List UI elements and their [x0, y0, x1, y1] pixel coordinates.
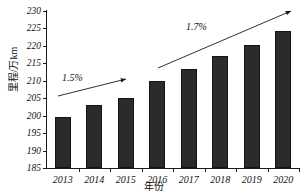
x-tick-mark	[173, 168, 174, 172]
y-tick-label: 195	[27, 128, 41, 138]
y-tick-label: 200	[27, 111, 41, 121]
x-tick-label: 2019	[242, 174, 262, 185]
y-tick-label: 225	[27, 23, 41, 33]
x-tick-mark	[79, 168, 80, 172]
x-tick-label: 2017	[179, 174, 199, 185]
x-tick-mark	[236, 168, 237, 172]
bar	[149, 81, 165, 168]
y-tick-label: 185	[27, 163, 41, 173]
plot-area: 185190195200205210215220225230 201320142…	[47, 11, 299, 168]
y-tick-mark	[43, 63, 47, 64]
y-tick-mark	[43, 98, 47, 99]
y-tick-label: 205	[27, 93, 41, 103]
growth-rate-label: 1.7%	[186, 21, 207, 32]
x-tick-label: 2014	[84, 174, 104, 185]
bar-chart: 里程/万km 年份 185190195200205210215220225230…	[0, 0, 308, 194]
y-tick-label: 220	[27, 41, 41, 51]
x-tick-mark	[142, 168, 143, 172]
y-axis-title: 里程/万km	[5, 20, 20, 120]
y-tick-mark	[43, 11, 47, 12]
y-tick-mark	[43, 168, 47, 169]
bar	[244, 45, 260, 168]
y-tick-mark	[43, 28, 47, 29]
x-tick-label: 2016	[147, 174, 167, 185]
x-tick-mark	[268, 168, 269, 172]
bar	[181, 69, 197, 168]
bar	[275, 31, 291, 168]
y-tick-mark	[43, 133, 47, 134]
y-tick-label: 215	[27, 58, 41, 68]
bar	[212, 56, 228, 168]
y-tick-mark	[43, 81, 47, 82]
x-tick-label: 2013	[53, 174, 73, 185]
bar	[55, 117, 71, 168]
growth-rate-label: 1.5%	[62, 72, 83, 83]
x-tick-label: 2020	[273, 174, 293, 185]
x-tick-mark	[205, 168, 206, 172]
bar	[86, 105, 102, 168]
x-tick-mark	[110, 168, 111, 172]
x-tick-label: 2018	[210, 174, 230, 185]
y-tick-mark	[43, 151, 47, 152]
x-tick-mark	[299, 168, 300, 172]
x-tick-label: 2015	[116, 174, 136, 185]
y-tick-mark	[43, 46, 47, 47]
y-tick-label: 230	[27, 6, 41, 16]
y-tick-mark	[43, 116, 47, 117]
y-tick-label: 210	[27, 76, 41, 86]
y-tick-label: 190	[27, 146, 41, 156]
bar	[118, 98, 134, 168]
